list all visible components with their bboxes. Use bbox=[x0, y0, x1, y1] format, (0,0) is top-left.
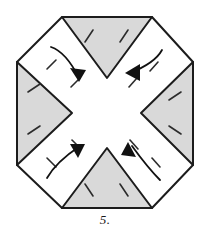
figure-caption: 5. bbox=[0, 212, 210, 228]
figure-root: 5. bbox=[0, 0, 210, 239]
origami-step-diagram bbox=[0, 0, 210, 239]
